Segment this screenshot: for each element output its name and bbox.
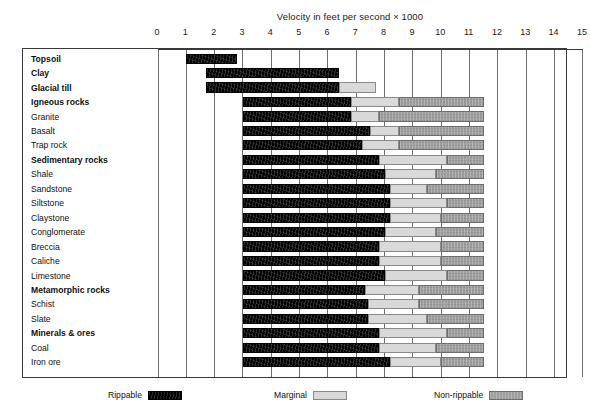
- row-label-slate: Slate: [31, 315, 51, 324]
- bar-segment-rippable: [206, 82, 339, 92]
- bar-segment-rippable: [243, 198, 390, 208]
- x-tick-label-0: 0: [154, 27, 159, 37]
- chart-row: Claystone: [23, 211, 566, 225]
- bar-segment-marginal: [390, 213, 441, 223]
- x-tick-label-10: 10: [435, 27, 445, 37]
- x-tick-label-1: 1: [183, 27, 188, 37]
- row-label-sedimentary-rocks: Sedimentary rocks: [31, 156, 108, 165]
- chart-row: Breccia: [23, 240, 566, 254]
- x-tick-label-14: 14: [549, 27, 559, 37]
- row-label-shale: Shale: [31, 170, 53, 179]
- bar-segment-marginal: [351, 97, 399, 107]
- bar-segment-nonrippable: [436, 227, 484, 237]
- bar-segment-rippable: [243, 97, 351, 107]
- bar-segment-rippable: [243, 184, 390, 194]
- x-tick-label-12: 12: [492, 27, 502, 37]
- x-tick-label-5: 5: [296, 27, 301, 37]
- bar-segment-nonrippable: [441, 241, 483, 251]
- bar-segment-rippable: [243, 169, 385, 179]
- x-tick-label-13: 13: [520, 27, 530, 37]
- row-label-glacial-till: Glacial till: [31, 83, 72, 92]
- legend-swatch-marginal-icon: [313, 391, 347, 400]
- chart-row: Trap rock: [23, 139, 566, 153]
- x-tick-label-11: 11: [464, 27, 473, 37]
- bar-segment-marginal: [362, 140, 399, 150]
- x-tick-label-4: 4: [268, 27, 273, 37]
- x-tick-label-7: 7: [353, 27, 358, 37]
- row-label-breccia: Breccia: [31, 242, 60, 251]
- row-label-clay: Clay: [31, 69, 49, 78]
- bar-segment-nonrippable: [447, 155, 484, 165]
- legend-label-marginal: Marginal: [274, 390, 307, 400]
- bar-segment-rippable: [206, 68, 339, 78]
- bar-segment-marginal: [339, 82, 376, 92]
- legend-label-nonrippable: Non-rippable: [434, 390, 483, 400]
- row-label-basalt: Basalt: [31, 127, 55, 136]
- bar-segment-rippable: [243, 140, 362, 150]
- x-tick-label-8: 8: [381, 27, 386, 37]
- chart-row: Basalt: [23, 124, 566, 138]
- x-tick-label-9: 9: [409, 27, 414, 37]
- row-label-topsoil: Topsoil: [31, 55, 61, 64]
- bar-segment-marginal: [368, 299, 419, 309]
- bar-segment-nonrippable: [441, 357, 483, 367]
- x-axis: 0123456789101112131415: [0, 27, 590, 41]
- plot-frame: TopsoilClayGlacial tillIgneous rocksGran…: [22, 48, 567, 378]
- chart-row: Slate: [23, 312, 566, 326]
- chart-row: Metamorphic rocks: [23, 283, 566, 297]
- row-label-schist: Schist: [31, 300, 54, 309]
- row-label-sandstone: Sandstone: [31, 185, 72, 194]
- legend-item-marginal: Marginal: [274, 390, 347, 400]
- bar-segment-nonrippable: [379, 111, 484, 121]
- bar-segment-nonrippable: [441, 213, 483, 223]
- row-label-iron-ore: Iron ore: [31, 358, 61, 367]
- chart-row: Siltstone: [23, 197, 566, 211]
- bar-segment-rippable: [243, 285, 365, 295]
- row-label-caliche: Caliche: [31, 257, 60, 266]
- bar-segment-rippable: [243, 328, 379, 338]
- bar-segment-marginal: [379, 256, 441, 266]
- x-tick-label-2: 2: [211, 27, 216, 37]
- row-label-claystone: Claystone: [31, 213, 69, 222]
- chart-root: Velocity in feet per second × 1000 01234…: [0, 0, 590, 414]
- x-tick-label-6: 6: [324, 27, 329, 37]
- chart-title: Velocity in feet per second × 1000: [0, 11, 590, 22]
- bar-segment-marginal: [385, 270, 447, 280]
- bar-segment-marginal: [390, 357, 441, 367]
- bar-segment-nonrippable: [447, 328, 484, 338]
- row-label-limestone: Limestone: [31, 271, 71, 280]
- chart-row: Limestone: [23, 269, 566, 283]
- bar-segment-marginal: [379, 343, 436, 353]
- bar-segment-marginal: [370, 126, 398, 136]
- chart-legend: Rippable Marginal Non-rippable: [22, 390, 568, 404]
- bar-segment-nonrippable: [399, 97, 484, 107]
- chart-row: Topsoil: [23, 52, 566, 66]
- chart-row: Glacial till: [23, 81, 566, 95]
- chart-row: Igneous rocks: [23, 95, 566, 109]
- bar-segment-nonrippable: [399, 140, 484, 150]
- row-label-conglomerate: Conglomerate: [31, 228, 85, 237]
- legend-swatch-rippable-icon: [148, 391, 182, 400]
- bar-segment-rippable: [243, 241, 379, 251]
- bar-segment-marginal: [379, 155, 447, 165]
- legend-swatch-nonrippable-icon: [489, 391, 523, 400]
- row-label-trap-rock: Trap rock: [31, 141, 67, 150]
- bar-segment-nonrippable: [447, 198, 484, 208]
- bar-segment-marginal: [379, 241, 441, 251]
- bar-segment-marginal: [385, 227, 436, 237]
- legend-label-rippable: Rippable: [108, 390, 142, 400]
- bar-segment-marginal: [368, 314, 427, 324]
- bar-segment-rippable: [243, 227, 385, 237]
- bar-segment-rippable: [243, 270, 385, 280]
- legend-item-nonrippable: Non-rippable: [434, 390, 523, 400]
- bar-segment-nonrippable: [447, 270, 484, 280]
- chart-row: Clay: [23, 66, 566, 80]
- bar-segment-rippable: [243, 357, 390, 367]
- chart-row: Shale: [23, 168, 566, 182]
- bar-segment-nonrippable: [427, 314, 484, 324]
- bar-segment-rippable: [243, 213, 390, 223]
- chart-row: Coal: [23, 341, 566, 355]
- chart-row: Sedimentary rocks: [23, 153, 566, 167]
- bar-segment-rippable: [243, 155, 379, 165]
- bar-segment-rippable: [243, 256, 379, 266]
